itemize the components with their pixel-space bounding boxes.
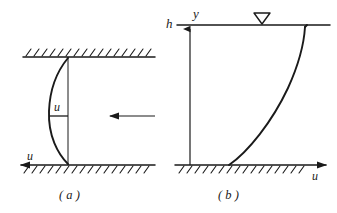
panel-a: [21, 49, 155, 173]
u-axis-label-panel-b: u: [312, 170, 318, 182]
panel-b-velocity-profile-curve: [229, 27, 305, 165]
panel-b: [175, 13, 330, 173]
water-surface-triangle-icon: [254, 13, 270, 24]
panel-a-bottom-wall-hatching: [24, 166, 149, 173]
u-label-bottom-panel-a: u: [27, 150, 33, 162]
caption-panel-b: ( b ): [218, 188, 239, 203]
u-label-mid-panel-a: u: [54, 101, 60, 113]
y-axis-label: y: [193, 7, 199, 20]
caption-panel-a: ( a ): [59, 188, 80, 203]
figure-container: h y u u u ( a ) ( b ): [0, 0, 337, 213]
depth-label-h: h: [166, 17, 173, 30]
panel-a-top-wall-hatching: [26, 49, 151, 56]
velocity-profile-diagram: [0, 0, 337, 213]
panel-b-bed-hatching: [179, 166, 304, 173]
